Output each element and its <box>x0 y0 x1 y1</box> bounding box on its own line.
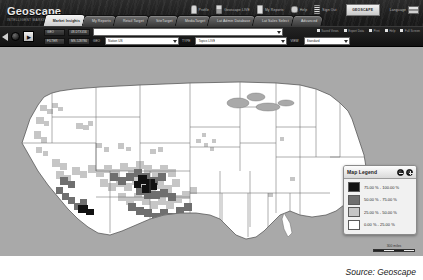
filter-tag: FILTER <box>44 38 65 45</box>
menu-label-help: Help <box>300 8 308 12</box>
legend-row[interactable]: 50.00 % - 75.00 % <box>348 195 413 205</box>
quick-links-bar: Saved Views Export Data Print Help Full … <box>317 27 420 34</box>
chevron-down-icon <box>281 40 285 43</box>
legend-label-0-25: 0.00 % - 25.00 % <box>364 222 395 227</box>
legend-swatch-75-100 <box>348 182 360 192</box>
filter-row-secondary: FILTER MS-528786 GEO Nation US TYPE Topi… <box>44 37 350 45</box>
help-icon <box>291 6 298 13</box>
bullet-icon <box>344 29 347 32</box>
legend-swatch-0-25 <box>348 220 360 230</box>
menu-label-geoscape-live: Geoscape LIVE <box>224 8 250 12</box>
chevron-down-icon <box>173 40 177 43</box>
quick-link-label-export-data: Export Data <box>348 29 364 33</box>
filter-row-primary: GEO 48-DTX456 <box>44 28 283 36</box>
view-field-label: VIEW <box>290 39 300 43</box>
type-field-label: TYPE <box>182 39 192 43</box>
quick-link-label-full-screen: Full Screen <box>405 29 420 33</box>
bullet-icon <box>369 29 372 32</box>
bullet-icon <box>385 29 388 32</box>
us-landmass <box>22 82 366 239</box>
legend-title: Map Legend <box>347 169 377 175</box>
geo-field-label: GEO <box>93 39 102 43</box>
geoscape-application: Geoscape INTELLIGENT MARKETING Profile G… <box>0 0 423 280</box>
tab-label-lat-sales-select: Lat Sales Select <box>262 19 289 23</box>
quick-link-label-print: Print <box>373 29 379 33</box>
legend-row[interactable]: 75.00 % - 100.00 % <box>348 182 413 192</box>
doc-icon <box>257 5 263 14</box>
quick-link-help[interactable]: Help <box>385 29 396 33</box>
legend-row[interactable]: 0.00 % - 25.00 % <box>348 220 413 230</box>
tab-lat-admin-database[interactable]: Lat Admin Database <box>207 15 258 26</box>
user-icon <box>191 5 197 14</box>
scale-bar-label: 300 miles <box>373 244 415 248</box>
legend-label-50-75: 50.00 % - 75.00 % <box>364 197 397 202</box>
view-select[interactable]: Standard <box>304 37 350 45</box>
tab-label-retail-target: Retail Target <box>123 19 144 23</box>
map-canvas[interactable]: 300 miles Map Legend 75.00 % - 100.00 % <box>0 47 423 256</box>
view-select-value: Standard <box>307 39 320 43</box>
quick-link-full-screen[interactable]: Full Screen <box>400 29 420 33</box>
menu-label-sign-out: Sign Out <box>322 8 336 12</box>
quick-link-export-data[interactable]: Export Data <box>344 29 364 33</box>
tab-label-lat-admin-database: Lat Admin Database <box>217 19 250 23</box>
filter-value[interactable]: MS-528786 <box>68 38 90 45</box>
tab-label-market-insights: Market Insights <box>53 19 80 23</box>
florida-detail <box>282 213 292 237</box>
chevron-down-icon <box>344 40 348 43</box>
tab-label-my-reports: My Reports <box>92 19 111 23</box>
scale-bar-graphic <box>373 249 415 252</box>
collapse-arrow-icon[interactable] <box>2 33 8 41</box>
legend-label-75-100: 75.00 % - 100.00 % <box>364 185 399 190</box>
tab-label-site-target: SiteTarget <box>156 19 173 23</box>
chevron-down-icon <box>277 31 281 34</box>
legend-swatch-50-75 <box>348 195 360 205</box>
search-input[interactable] <box>93 28 283 36</box>
geo-select-value: Nation US <box>108 39 123 43</box>
brand-badge: GEOSCAPE <box>346 4 380 16</box>
close-icon[interactable] <box>406 169 413 176</box>
app-chrome: Geoscape INTELLIGENT MARKETING Profile G… <box>0 0 423 47</box>
legend-row[interactable]: 25.00 % - 50.00 % <box>348 207 413 217</box>
type-select[interactable]: Topics LIVE <box>195 37 287 45</box>
legend-body: 75.00 % - 100.00 % 50.00 % - 75.00 % 25.… <box>344 179 416 234</box>
language-label: Language <box>390 8 406 12</box>
source-caption: Source: Geoscape <box>346 267 416 277</box>
settings-knob-icon[interactable] <box>11 32 20 41</box>
minimize-icon[interactable] <box>397 169 404 176</box>
legend-header-buttons <box>397 169 414 176</box>
menu-label-profile: Profile <box>199 8 210 12</box>
geo-select[interactable]: Nation US <box>105 37 179 45</box>
quick-link-print[interactable]: Print <box>369 29 380 33</box>
type-select-value: Topics LIVE <box>198 39 215 43</box>
bullet-icon <box>317 29 320 32</box>
chart-icon <box>216 5 222 14</box>
geo-code-value[interactable]: 48-DTX456 <box>68 29 90 36</box>
main-tab-strip: Market Insights My Reports Retail Target… <box>44 14 321 26</box>
legend-header: Map Legend <box>344 166 416 179</box>
legend-swatch-25-50 <box>348 207 360 217</box>
menu-label-my-reports: My Reports <box>265 8 284 12</box>
quick-link-label-saved-views: Saved Views <box>321 29 338 33</box>
list-icon <box>314 5 320 14</box>
tab-label-advanced: Advanced <box>301 19 317 23</box>
quick-link-saved-views[interactable]: Saved Views <box>317 29 339 33</box>
play-button[interactable]: ▶ <box>23 31 34 42</box>
tab-advanced[interactable]: Advanced <box>291 15 325 26</box>
brand-badge-text: GEOSCAPE <box>352 8 373 12</box>
map-scale-bar: 300 miles <box>373 244 415 252</box>
toolbar-control-cluster: ▶ <box>2 28 34 45</box>
language-selector[interactable]: Language <box>390 6 419 14</box>
legend-label-25-50: 25.00 % - 50.00 % <box>364 210 397 215</box>
bullet-icon <box>400 29 403 32</box>
flag-icon <box>408 6 419 14</box>
quick-link-label-help: Help <box>389 29 395 33</box>
map-legend-panel[interactable]: Map Legend 75.00 % - 100.00 % 50.00 % - … <box>343 165 417 235</box>
geo-code-tag: GEO <box>44 29 65 36</box>
tab-label-media-target: MediaTarget <box>185 19 205 23</box>
